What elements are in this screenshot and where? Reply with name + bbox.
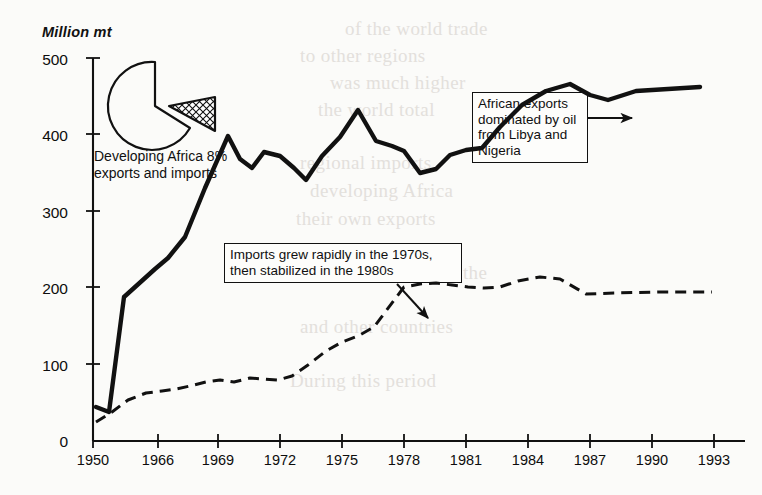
pie-inset [108,62,215,150]
callout-imports-arrow [397,284,428,318]
chart-page: of the world trade to other regions was … [0,0,762,495]
chart-plot-area [0,0,762,495]
series-imports-line [96,277,712,422]
